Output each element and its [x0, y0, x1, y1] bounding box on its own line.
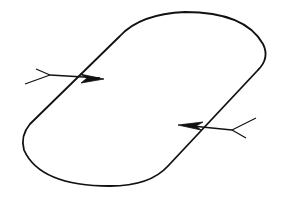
arrow-right-fletch-bottom: [232, 130, 246, 138]
closed-loop-boundary: [23, 12, 266, 186]
diagram-canvas: [0, 0, 282, 198]
arrow-left-icon: [25, 69, 104, 84]
arrow-right-fletch-top: [232, 118, 256, 130]
arrow-right-icon: [178, 118, 256, 138]
arrow-left-head: [80, 74, 104, 83]
arrow-right-head: [178, 122, 203, 130]
diagram-svg: [0, 0, 282, 198]
arrow-left-fletch-top: [36, 69, 50, 75]
arrow-left-fletch-bottom: [25, 75, 50, 84]
